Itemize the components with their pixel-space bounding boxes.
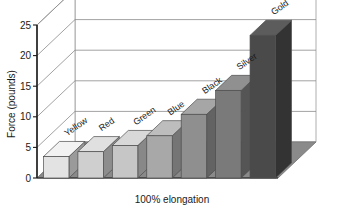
bar-gold	[250, 20, 291, 178]
bar-front-face	[216, 90, 241, 178]
bar-front-face	[181, 114, 206, 178]
bar-front-face	[43, 157, 68, 178]
bar-side-face	[276, 20, 292, 178]
bar-front-face	[147, 136, 172, 178]
y-tick-label: 20	[20, 50, 32, 61]
bar-front-face	[78, 152, 103, 178]
y-tick-label: 0	[25, 173, 31, 184]
y-tick-label: 10	[20, 111, 32, 122]
y-axis-title: Force (pounds)	[6, 70, 17, 138]
x-axis-title: 100% elongation	[135, 194, 210, 205]
bar-front-face	[112, 146, 137, 178]
y-tick-label: 15	[20, 81, 32, 92]
chart-canvas: 0510152025 YellowRedGreenBlueBlackSilver…	[0, 0, 343, 214]
y-tick-label: 5	[25, 142, 31, 153]
bar-chart-figure: 0510152025 YellowRedGreenBlueBlackSilver…	[0, 0, 343, 214]
y-tick-label: 25	[20, 20, 32, 31]
